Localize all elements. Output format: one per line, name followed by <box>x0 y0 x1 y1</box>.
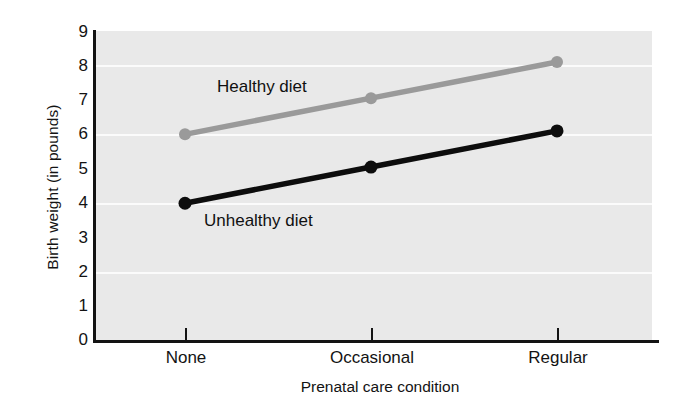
y-tick-label: 5 <box>54 160 88 177</box>
y-tick-label: 3 <box>54 229 88 246</box>
y-tick-label: 0 <box>54 331 88 348</box>
x-tick-mark <box>557 328 559 341</box>
series-canvas <box>95 31 652 341</box>
x-tick-mark <box>371 328 373 341</box>
data-point <box>551 124 564 137</box>
x-tick-mark <box>185 328 187 341</box>
y-tick-label: 8 <box>54 57 88 74</box>
chart-figure: Birth weight (in pounds) 9 8 7 6 5 4 3 2… <box>0 0 684 408</box>
x-axis-title-text: Prenatal care condition <box>301 378 460 396</box>
plot-area <box>95 31 652 341</box>
x-axis-title: Prenatal care condition <box>0 378 684 396</box>
data-point <box>179 197 192 210</box>
x-axis-line <box>93 340 659 343</box>
data-point <box>365 92 377 104</box>
y-tick-label: 1 <box>54 297 88 314</box>
data-point <box>551 56 563 68</box>
y-tick-label: 4 <box>54 194 88 211</box>
x-tick-label-none: None <box>96 348 276 368</box>
y-axis-tick-labels: 9 8 7 6 5 4 3 2 1 0 <box>52 0 88 408</box>
y-tick-label: 2 <box>54 263 88 280</box>
y-axis-line <box>93 30 96 342</box>
series-label-healthy-diet: Healthy diet <box>217 77 307 97</box>
y-tick-label: 7 <box>54 91 88 108</box>
y-tick-label: 9 <box>54 23 88 40</box>
x-tick-label-regular: Regular <box>468 348 648 368</box>
series-unhealthy-diet <box>179 124 564 209</box>
x-tick-label-occasional: Occasional <box>282 348 462 368</box>
data-point <box>179 128 191 140</box>
data-point <box>365 161 378 174</box>
series-label-unhealthy-diet: Unhealthy diet <box>204 211 313 231</box>
y-tick-label: 6 <box>54 125 88 142</box>
series-healthy-diet <box>179 56 563 140</box>
